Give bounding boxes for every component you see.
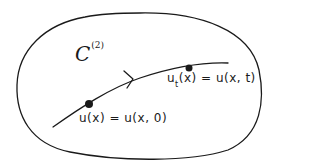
end-point-label-base: u bbox=[167, 71, 175, 85]
end-point-label: ut(x) = u(x, t) bbox=[167, 71, 256, 87]
end-point-label-rest: (x) = u(x, t) bbox=[179, 71, 256, 85]
set-label: C(2) bbox=[75, 44, 103, 64]
start-point-label: u(x) = u(x, 0) bbox=[79, 111, 167, 125]
direction-arrow-icon bbox=[124, 71, 133, 88]
start-point-dot bbox=[85, 100, 93, 108]
set-superscript: (2) bbox=[91, 40, 104, 50]
end-point-label-sub: t bbox=[175, 80, 179, 89]
set-symbol: C bbox=[75, 42, 90, 66]
